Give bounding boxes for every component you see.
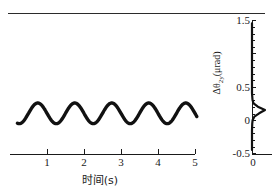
x-tick-5 bbox=[195, 149, 196, 154]
distribution-curve bbox=[252, 23, 265, 150]
waveform-line bbox=[17, 103, 196, 124]
x-tick-1 bbox=[47, 149, 48, 154]
distribution-plot-area bbox=[250, 14, 272, 159]
y-axis-title-subscript: 2y bbox=[217, 76, 225, 83]
x-tick-label-2: 2 bbox=[72, 156, 96, 169]
y-axis-title: Δθ2y(μrad) bbox=[211, 28, 225, 118]
x-axis-line bbox=[10, 154, 195, 155]
distribution-x-axis-line bbox=[252, 154, 272, 155]
distribution-panel: Δθ2y(μrad) 1.5 0.5 0 -0.5 bbox=[200, 14, 272, 191]
distribution-x-tick-label-0: 0 bbox=[246, 156, 260, 168]
y-axis-title-symbol: Δθ bbox=[211, 83, 222, 94]
y-tick-label-0-5: 0.5 bbox=[236, 82, 250, 93]
x-tick-2 bbox=[84, 149, 85, 154]
x-tick-label-4: 4 bbox=[146, 156, 170, 169]
y-tick-label-1-5: 1.5 bbox=[236, 15, 250, 26]
timeseries-plot-area bbox=[0, 14, 200, 159]
x-tick-3 bbox=[121, 149, 122, 154]
x-axis-title: 时间(s) bbox=[0, 171, 200, 187]
x-tick-label-3: 3 bbox=[109, 156, 133, 169]
x-tick-4 bbox=[158, 149, 159, 154]
y-axis-title-unit: (μrad) bbox=[211, 51, 222, 76]
figure-root: 1 2 3 4 5 时间(s) Δθ2y(μrad) bbox=[0, 0, 272, 191]
timeseries-panel: 1 2 3 4 5 时间(s) bbox=[0, 14, 200, 191]
x-tick-label-1: 1 bbox=[35, 156, 59, 169]
